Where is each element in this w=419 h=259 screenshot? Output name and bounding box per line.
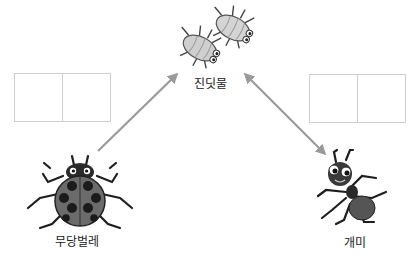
ant-icon xyxy=(0,0,419,259)
ant-label: 개미 xyxy=(344,233,366,250)
